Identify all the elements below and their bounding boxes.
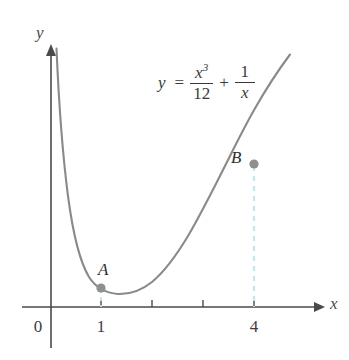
x-axis [22,302,325,312]
marked-points [96,159,258,292]
x-axis-ticks [101,300,254,307]
x-axis-label: x [330,295,338,312]
equation-first-numerator-base: x [195,63,203,82]
equation-annotation: y = x3 12 + 1 x [158,62,256,102]
equation-first-numerator: x3 [192,62,211,83]
equation-lhs: y [158,74,166,91]
point-marker-b [249,159,258,168]
equation-second-fraction: 1 x [235,63,255,102]
x-tick-label-4: 4 [242,318,266,335]
origin-label: 0 [26,318,50,335]
point-label-b: B [231,149,241,166]
equation-second-denominator: x [238,83,252,102]
x-tick-label-1: 1 [89,318,113,335]
plot-canvas [0,0,349,360]
equation-equals-sign: = [175,74,185,91]
y-axis-label: y [36,24,44,41]
dashed-guides [101,166,254,307]
y-axis [46,44,56,348]
point-marker-a [96,283,105,292]
equation-first-fraction: x3 12 [190,62,213,102]
graph-figure: y x 0 1 4 A B y = x3 12 + 1 x [0,0,349,360]
equation-second-numerator: 1 [237,63,252,82]
y-axis-arrowhead [46,44,56,56]
equation-first-exponent: 3 [203,61,209,73]
point-label-a: A [98,261,108,278]
equation-plus-sign: + [219,74,229,91]
x-axis-arrowhead [314,302,325,312]
equation-first-denominator: 12 [190,84,213,103]
